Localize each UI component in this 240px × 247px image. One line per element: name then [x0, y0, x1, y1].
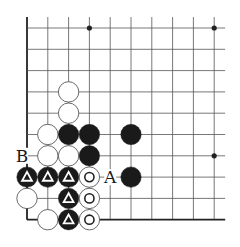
black-stone [79, 124, 99, 144]
board-grid [27, 17, 225, 220]
white-stone [38, 210, 58, 230]
white-stone [58, 103, 78, 123]
white-stone [38, 124, 58, 144]
black-stone [58, 124, 78, 144]
black-stone [38, 167, 58, 187]
black-stone [121, 124, 141, 144]
black-stone [58, 167, 78, 187]
white-stone [79, 210, 99, 230]
black-stone [121, 167, 141, 187]
black-stone [58, 188, 78, 208]
star-point [212, 153, 217, 158]
black-stone [58, 210, 78, 230]
white-stone [38, 146, 58, 166]
point-label-a: A [103, 167, 117, 187]
go-board-diagram: BA [0, 0, 240, 247]
point-label-b: B [16, 146, 29, 166]
black-stone [17, 167, 37, 187]
white-stone [58, 82, 78, 102]
white-stone [17, 188, 37, 208]
white-stone [79, 167, 99, 187]
star-point [87, 25, 92, 30]
star-point [212, 25, 217, 30]
black-stone [79, 146, 99, 166]
white-stone [79, 188, 99, 208]
white-stone [58, 146, 78, 166]
